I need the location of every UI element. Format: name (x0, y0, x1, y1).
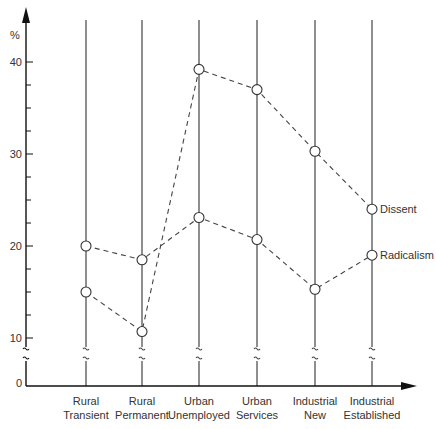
data-point-marker (81, 287, 91, 297)
x-tick-label: UrbanUnemployed (168, 395, 230, 421)
axis-break-icon (254, 348, 260, 350)
y-tick-label: 20 (10, 240, 22, 252)
data-point-marker (137, 327, 147, 337)
axis-break-icon (23, 357, 29, 359)
category-lines (83, 20, 375, 386)
data-point-marker (194, 212, 204, 222)
data-point-marker (137, 255, 147, 265)
x-tick-label: RuralTransient (63, 395, 108, 421)
x-axis-labels: RuralTransientRuralPermanentUrbanUnemplo… (63, 395, 400, 421)
x-axis-arrow-icon (401, 382, 417, 390)
data-point-marker (310, 284, 320, 294)
series-label-radicalism: Radicalism (380, 249, 434, 261)
series-line-dissent (86, 69, 372, 331)
data-point-marker (252, 235, 262, 245)
axis-break-icon (312, 357, 318, 359)
x-tick-label: IndustrialEstablished (344, 395, 401, 421)
series-line-radicalism (86, 217, 372, 289)
figure-caption: (caption cut off, illegible) (12, 420, 432, 429)
axis-break-icon (139, 348, 145, 350)
series-label-dissent: Dissent (380, 203, 417, 215)
data-point-marker (194, 64, 204, 74)
axis-break-icon (369, 348, 375, 350)
x-axis (26, 382, 417, 390)
y-axis-unit-label: % (10, 29, 20, 41)
data-point-marker (310, 146, 320, 156)
y-axis: %010203040 (10, 7, 33, 389)
x-tick-label: IndustrialNew (293, 395, 338, 421)
axis-break-icon (196, 357, 202, 359)
axis-break-icon (83, 348, 89, 350)
x-tick-label: UrbanServices (236, 395, 279, 421)
x-tick-label: RuralPermanent (115, 395, 169, 421)
axis-break-icon (23, 348, 29, 350)
y-tick-label: 0 (16, 377, 22, 389)
data-point-marker (367, 204, 377, 214)
axis-break-icon (312, 348, 318, 350)
y-tick-label: 30 (10, 148, 22, 160)
line-chart: %010203040 DissentRadicalism RuralTransi… (0, 0, 436, 429)
y-tick-label: 40 (10, 56, 22, 68)
axis-break-icon (139, 357, 145, 359)
y-axis-arrow-icon (22, 7, 30, 23)
axis-break-icon (254, 357, 260, 359)
axis-break-icon (196, 348, 202, 350)
data-point-marker (252, 85, 262, 95)
data-point-marker (367, 250, 377, 260)
axis-break-icon (369, 357, 375, 359)
y-tick-label: 10 (10, 332, 22, 344)
axis-break-icon (83, 357, 89, 359)
data-point-marker (81, 241, 91, 251)
